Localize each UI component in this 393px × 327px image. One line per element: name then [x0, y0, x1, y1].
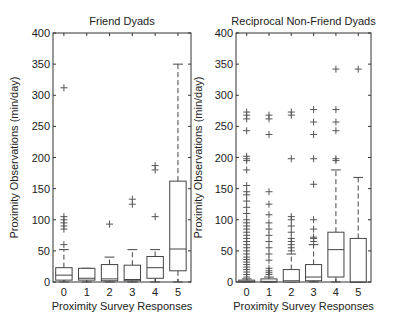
y-tick-label: 400	[215, 27, 233, 39]
y-tick-label: 50	[221, 245, 233, 257]
outlier-marker	[332, 66, 339, 73]
outlier-marker	[243, 188, 250, 195]
y-tick-label: 250	[215, 120, 233, 132]
outlier-marker	[60, 213, 67, 220]
outlier-marker	[152, 162, 159, 169]
x-tick-label: 4	[333, 286, 339, 298]
outlier-marker	[310, 119, 317, 126]
box	[124, 265, 140, 281]
outlier-marker	[243, 127, 250, 134]
chart-title: Friend Dyads	[89, 15, 155, 27]
outlier-marker	[129, 196, 136, 203]
chart-title: Reciprocal Non-Friend Dyads	[231, 15, 376, 27]
outlier-marker	[332, 155, 339, 162]
y-tick-label: 200	[32, 152, 50, 164]
outlier-marker	[332, 106, 339, 113]
x-tick-label: 3	[129, 286, 135, 298]
x-tick-label: 2	[288, 286, 294, 298]
outlier-marker	[265, 112, 272, 119]
x-tick-label: 1	[84, 286, 90, 298]
x-axis-label: Proximity Survey Responses	[233, 300, 374, 312]
box	[306, 265, 322, 281]
outlier-marker	[332, 127, 339, 134]
y-axis-label: Proximity Observations (min/day)	[8, 77, 20, 239]
outlier-marker	[265, 188, 272, 195]
box	[170, 181, 186, 271]
outlier-marker	[310, 181, 317, 188]
y-tick-label: 0	[227, 276, 233, 288]
y-tick-label: 0	[44, 276, 50, 288]
outlier-marker	[288, 235, 295, 242]
y-tick-label: 50	[38, 245, 50, 257]
outlier-marker	[310, 106, 317, 113]
outlier-marker	[288, 155, 295, 162]
outlier-marker	[265, 226, 272, 233]
x-axis-label: Proximity Survey Responses	[52, 300, 193, 312]
x-tick-label: 5	[175, 286, 181, 298]
box	[350, 238, 366, 282]
outlier-marker	[265, 238, 272, 245]
outlier-marker	[265, 219, 272, 226]
y-tick-label: 100	[215, 214, 233, 226]
y-tick-label: 100	[32, 214, 50, 226]
outlier-marker	[310, 155, 317, 162]
y-axis-label: Proximity Observations (min/day)	[192, 77, 204, 239]
x-tick-label: 0	[244, 286, 250, 298]
outlier-marker	[265, 244, 272, 251]
outlier-marker	[288, 109, 295, 116]
outlier-marker	[243, 210, 250, 217]
outlier-marker	[310, 226, 317, 233]
outlier-marker	[265, 131, 272, 138]
outlier-marker	[243, 216, 250, 223]
y-tick-label: 200	[215, 152, 233, 164]
outlier-marker	[288, 222, 295, 229]
box	[283, 270, 299, 282]
y-tick-label: 150	[32, 183, 50, 195]
outlier-marker	[265, 250, 272, 257]
outlier-marker	[332, 119, 339, 126]
box	[56, 268, 72, 280]
outlier-marker	[60, 241, 67, 248]
outlier-marker	[288, 229, 295, 236]
outlier-marker	[243, 182, 250, 189]
box	[101, 265, 117, 281]
x-tick-label: 1	[266, 286, 272, 298]
outlier-marker	[265, 201, 272, 208]
outlier-marker	[265, 232, 272, 239]
outlier-marker	[355, 66, 362, 73]
outlier-marker	[60, 84, 67, 91]
outlier-marker	[152, 213, 159, 220]
outlier-marker	[288, 213, 295, 220]
y-tick-label: 150	[215, 183, 233, 195]
outlier-marker	[243, 109, 250, 116]
outlier-marker	[243, 166, 250, 173]
outlier-marker	[265, 211, 272, 218]
outlier-marker	[310, 131, 317, 138]
y-tick-label: 350	[32, 58, 50, 70]
y-tick-label: 300	[32, 89, 50, 101]
outlier-marker	[310, 216, 317, 223]
x-tick-label: 0	[61, 286, 67, 298]
y-tick-label: 400	[32, 27, 50, 39]
y-tick-label: 250	[32, 120, 50, 132]
x-tick-label: 4	[152, 286, 158, 298]
x-tick-label: 2	[106, 286, 112, 298]
chart-canvas: 050100150200250300350400012345Friend Dya…	[0, 0, 393, 327]
outlier-marker	[243, 204, 250, 211]
y-tick-label: 300	[215, 89, 233, 101]
x-tick-label: 5	[355, 286, 361, 298]
x-tick-label: 3	[311, 286, 317, 298]
outlier-marker	[265, 257, 272, 264]
outlier-marker	[310, 234, 317, 241]
y-tick-label: 350	[215, 58, 233, 70]
outlier-marker	[106, 221, 113, 228]
outlier-marker	[243, 198, 250, 205]
box	[328, 232, 344, 277]
